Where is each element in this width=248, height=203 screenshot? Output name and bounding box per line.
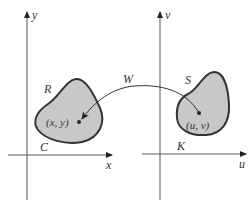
transformation-diagram: y x R C (x, y) v u S K (u, v) W (0, 0, 248, 203)
x-axis-label: x (105, 158, 112, 172)
left-plane (8, 12, 112, 200)
y-axis-label: y (31, 8, 38, 22)
v-axis-label: v (165, 8, 171, 22)
region-r-label: R (43, 82, 52, 96)
u-axis-label: u (239, 157, 245, 171)
point-xy (77, 120, 81, 124)
point-xy-label: (x, y) (46, 116, 69, 129)
region-s-label: S (185, 73, 191, 87)
point-uv-label: (u, v) (186, 119, 210, 132)
boundary-c-label: C (40, 140, 49, 154)
boundary-k-label: K (176, 139, 186, 153)
mapping-w-label: W (123, 72, 134, 86)
